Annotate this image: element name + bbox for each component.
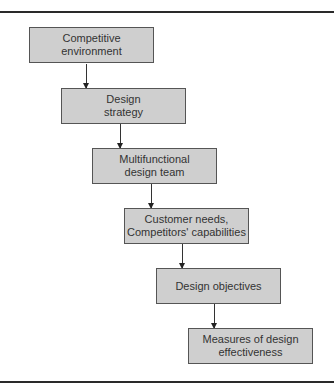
arrow-3-to-4 <box>151 184 152 208</box>
node-customer-needs: Customer needs, Competitors' capabilitie… <box>124 208 249 244</box>
node-measures-of-design-effectiveness: Measures of design effectiveness <box>188 328 313 364</box>
arrow-1-to-2 <box>86 64 87 88</box>
node-design-objectives: Design objectives <box>156 268 281 304</box>
node-multifunctional-design-team: Multifunctional design team <box>92 148 217 184</box>
node-design-strategy: Design strategy <box>61 88 186 124</box>
arrow-5-to-6 <box>214 304 215 328</box>
bottom-rule <box>0 381 334 383</box>
top-rule <box>0 11 334 13</box>
node-competitive-environment: Competitive environment <box>29 27 154 63</box>
arrow-4-to-5 <box>182 244 183 268</box>
arrow-2-to-3 <box>120 124 121 148</box>
